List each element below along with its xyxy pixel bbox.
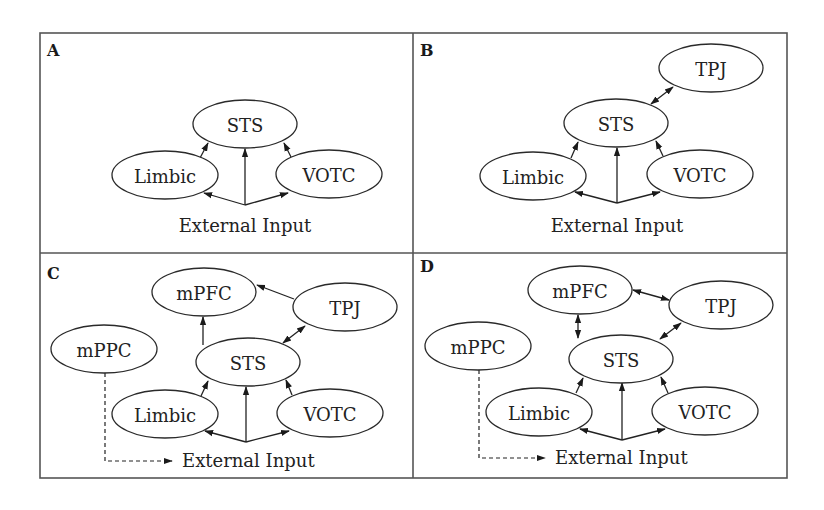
svg-text:mPFC: mPFC: [552, 281, 607, 302]
node-limbic: Limbic: [480, 152, 586, 200]
svg-text:TPJ: TPJ: [695, 59, 726, 80]
svg-text:VOTC: VOTC: [301, 165, 355, 186]
svg-text:Limbic: Limbic: [508, 403, 570, 424]
node-limbic: Limbic: [112, 390, 218, 438]
node-mpfc: mPFC: [528, 266, 632, 314]
edge-input-to-limbic: [575, 192, 617, 203]
external-input-label: External Input: [179, 215, 312, 236]
node-votc: VOTC: [647, 150, 753, 198]
edge-limbic-to-sts: [201, 381, 208, 396]
node-sts: STS: [196, 338, 300, 386]
node-tpj: TPJ: [669, 281, 773, 329]
network-diagram-figure: A STS Limbic VOTC External Input B: [0, 0, 824, 510]
svg-text:STS: STS: [603, 350, 640, 371]
node-mppc: mPPC: [425, 322, 531, 370]
svg-text:Limbic: Limbic: [134, 405, 196, 426]
svg-text:STS: STS: [598, 114, 635, 135]
edge-input-to-limbic: [580, 429, 622, 440]
edge-input-to-votc: [246, 431, 289, 442]
edge-input-to-votc: [622, 429, 665, 440]
edge-sts-tpj-bidirectional: [660, 323, 681, 339]
svg-text:mPPC: mPPC: [450, 337, 505, 358]
edge-input-to-limbic: [205, 431, 246, 442]
panel-a: A STS Limbic VOTC External Input: [46, 41, 382, 236]
panel-letter-a: A: [46, 41, 60, 60]
edge-sts-tpj-bidirectional: [283, 326, 305, 343]
svg-text:Limbic: Limbic: [502, 167, 564, 188]
node-votc: VOTC: [276, 150, 382, 198]
panel-c: C mPFC TPJ mPPC STS: [47, 264, 397, 471]
node-mppc: mPPC: [51, 325, 157, 373]
svg-text:STS: STS: [227, 115, 264, 136]
svg-text:mPFC: mPFC: [176, 283, 231, 304]
edge-votc-to-sts: [661, 377, 668, 393]
node-tpj: TPJ: [293, 283, 397, 331]
svg-text:TPJ: TPJ: [329, 298, 360, 319]
external-input-label: External Input: [551, 215, 684, 236]
svg-text:VOTC: VOTC: [677, 402, 731, 423]
node-votc: VOTC: [652, 387, 758, 435]
node-sts: STS: [564, 99, 668, 147]
external-input-label: External Input: [182, 450, 315, 471]
svg-text:VOTC: VOTC: [302, 404, 356, 425]
edge-limbic-to-sts: [571, 142, 578, 158]
svg-text:VOTC: VOTC: [672, 165, 726, 186]
node-tpj: TPJ: [659, 44, 763, 92]
node-mpfc: mPFC: [152, 268, 256, 316]
node-votc: VOTC: [277, 389, 383, 437]
edge-votc-to-sts: [284, 143, 291, 157]
svg-text:Limbic: Limbic: [134, 166, 196, 187]
node-limbic: Limbic: [112, 151, 218, 199]
node-sts: STS: [569, 335, 673, 383]
edge-tpj-to-mpfc: [257, 285, 294, 299]
panel-letter-c: C: [47, 264, 60, 283]
panel-b: B TPJ STS Limbic VOTC External Input: [420, 41, 763, 236]
svg-text:STS: STS: [230, 353, 267, 374]
edge-mpfc-tpj-bidirectional: [633, 290, 669, 300]
edge-limbic-to-sts: [576, 378, 583, 393]
node-limbic: Limbic: [486, 388, 592, 436]
edge-votc-to-sts: [656, 141, 663, 156]
svg-text:TPJ: TPJ: [705, 296, 736, 317]
node-sts: STS: [193, 100, 297, 148]
panel-d: D mPFC TPJ mPPC STS: [420, 257, 773, 468]
edge-votc-to-sts: [286, 380, 292, 395]
edge-limbic-to-sts: [200, 143, 208, 158]
panel-letter-d: D: [420, 257, 434, 276]
external-input-label: External Input: [555, 447, 688, 468]
panel-letter-b: B: [420, 41, 434, 60]
svg-text:mPPC: mPPC: [76, 340, 131, 361]
edge-input-to-votc: [617, 192, 660, 203]
edge-input-to-limbic: [204, 193, 245, 205]
edge-input-to-votc: [245, 193, 288, 205]
edge-sts-tpj-bidirectional: [651, 87, 673, 104]
